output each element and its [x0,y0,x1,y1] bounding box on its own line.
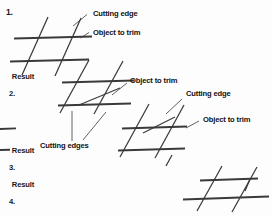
result-word-4: Result [12,180,34,189]
fig1-horizontal-top [14,37,92,39]
fig2-edge-stub-left [0,128,16,129]
fig2-diagonal-right [94,61,123,114]
step-1-number: 1. [6,8,13,17]
fig1-horizontal-bottom [10,60,89,62]
fig4-horizontal-bottom [183,198,240,200]
figure-3-geometry [118,104,187,158]
result-number-2: 2. [4,90,34,99]
fig4-diagonal-left [197,166,222,211]
callout-object-to-trim-1: Object to trim [93,28,140,37]
fig3-horizontal-bottom [118,149,185,151]
fig1-diagonal-right [55,18,81,76]
fig2-trimmed-segment [79,88,120,105]
fig1-cutting-edge-leader [73,15,87,27]
result-number-4: 4. [4,198,34,207]
fig2-object-to-trim-leader [112,83,127,95]
fig2-horizontal-top [62,81,134,83]
callout-cutting-edges-3: Cutting edges [40,141,89,150]
illustration-stage: 1. Cutting edge Object to trim Result 2.… [0,0,272,216]
callout-object-to-trim-3: Object to trim [203,115,250,124]
fig4-diagonal-right [232,167,257,212]
callout-cutting-edge-1: Cutting edge [93,9,138,18]
cutting-edges-leader-diagonal [83,112,106,140]
result-label-2: Result 2. [4,64,34,116]
fig4-edge-stub-upper [166,155,172,166]
result-label-4: Result 4. [4,172,34,216]
result-word-3: Result [12,146,34,155]
fig4-horizontal-stub-right [240,197,269,198]
fig4-vertical-right-top [245,179,250,191]
callout-object-to-trim-2: Object to trim [130,76,177,85]
fig3-diagonal-right [155,105,184,158]
result-word-2: Result [12,72,34,81]
callout-cutting-edge-3: Cutting edge [186,89,231,98]
figure-4-geometry [183,166,269,212]
fig2-horizontal-bottom [58,104,131,106]
fig3-object-to-trim-leader [186,121,199,128]
